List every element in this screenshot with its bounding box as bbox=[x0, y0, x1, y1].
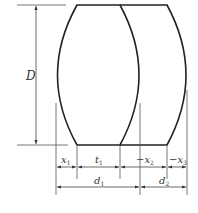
label-d1-sub: 1 bbox=[100, 180, 104, 187]
label-d2: d2 bbox=[159, 176, 169, 189]
label-t1: t1 bbox=[95, 155, 103, 168]
label-d1: d1 bbox=[94, 176, 104, 189]
label-x3-sub: 3 bbox=[183, 159, 187, 166]
label-diameter-text: D bbox=[26, 69, 36, 83]
label-x1-sub: 1 bbox=[67, 159, 71, 166]
label-x1: x1 bbox=[61, 155, 70, 168]
label-diameter: D bbox=[26, 70, 36, 82]
label-x2-sub: 2 bbox=[150, 159, 154, 166]
label-t1-sub: 1 bbox=[99, 159, 103, 166]
lens-1-outline bbox=[58, 5, 140, 145]
label-x2: −x2 bbox=[136, 155, 154, 168]
label-x3: −x3 bbox=[169, 155, 187, 168]
lens-diagram: D x1 t1 −x2 −x3 d1 d2 bbox=[0, 0, 198, 213]
label-d2-sub: 2 bbox=[165, 180, 169, 187]
